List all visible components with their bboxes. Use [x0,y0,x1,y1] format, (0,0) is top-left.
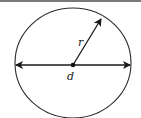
center-point [71,63,76,68]
diameter-label: d [67,70,74,83]
radius-label: r [78,36,84,49]
circle-diagram: r d [0,0,141,118]
